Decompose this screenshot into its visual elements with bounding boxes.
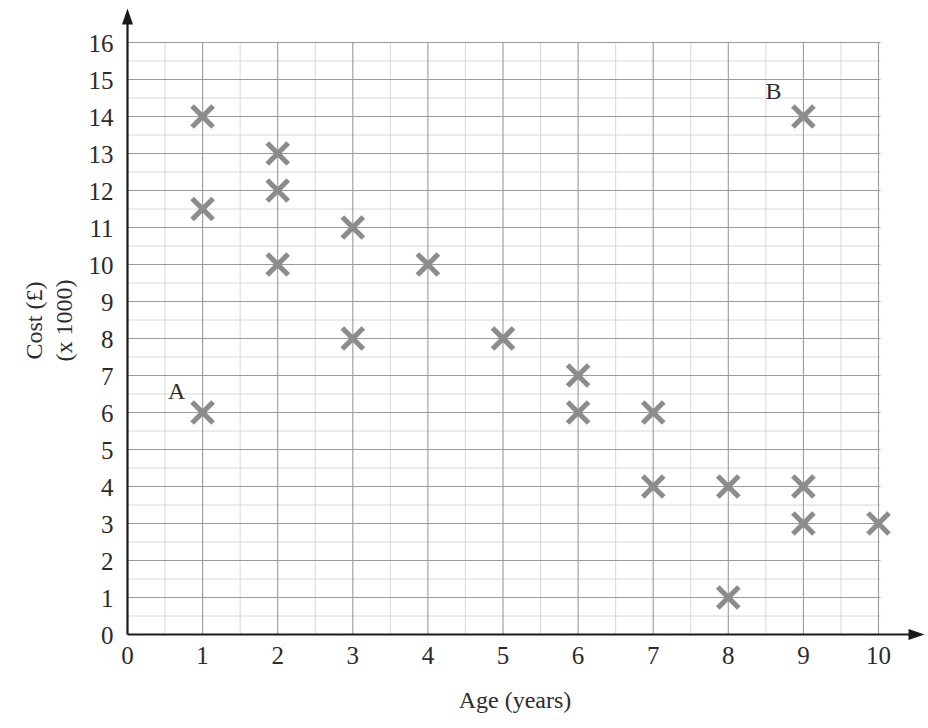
y-axis-title-line1: Cost (£) [21, 282, 47, 360]
y-tick-label: 5 [101, 437, 114, 464]
scatter-plot-canvas: 012345678910 012345678910111213141516 AB… [0, 0, 928, 728]
y-tick-label: 1 [101, 585, 114, 612]
y-tick-label: 11 [89, 215, 113, 242]
x-axis-tick-labels: 012345678910 [121, 642, 891, 669]
y-tick-label: 7 [101, 363, 114, 390]
x-tick-label: 7 [647, 642, 660, 669]
y-tick-label: 3 [101, 511, 114, 538]
x-tick-label: 4 [422, 642, 435, 669]
y-tick-label: 14 [89, 104, 115, 131]
x-tick-label: 8 [722, 642, 735, 669]
y-tick-label: 10 [89, 252, 114, 279]
x-tick-label: 5 [497, 642, 510, 669]
y-tick-label: 16 [89, 30, 114, 57]
y-tick-label: 13 [89, 141, 114, 168]
y-tick-label: 8 [101, 326, 114, 353]
y-tick-label: 4 [101, 474, 114, 501]
y-axis-tick-labels: 012345678910111213141516 [89, 30, 115, 649]
x-axis-title: Age (years) [459, 687, 572, 713]
y-tick-label: 15 [89, 67, 114, 94]
y-tick-label: 0 [101, 622, 114, 649]
point-label-b: B [765, 78, 781, 104]
y-tick-label: 2 [101, 548, 114, 575]
x-tick-label: 3 [347, 642, 360, 669]
x-tick-label: 1 [196, 642, 209, 669]
point-label-a: A [168, 378, 186, 404]
y-tick-label: 6 [101, 400, 114, 427]
x-tick-label: 9 [797, 642, 810, 669]
x-tick-label: 0 [121, 642, 134, 669]
x-axis-arrowhead [909, 629, 925, 640]
y-axis-arrowhead [122, 9, 133, 25]
y-tick-label: 12 [89, 178, 114, 205]
axis-lines [122, 9, 925, 641]
y-axis-title-line2: (x 1000) [51, 280, 77, 362]
x-tick-label: 10 [866, 642, 891, 669]
x-tick-label: 6 [572, 642, 585, 669]
x-tick-label: 2 [271, 642, 284, 669]
scatter-chart: 012345678910 012345678910111213141516 AB… [0, 0, 928, 728]
point-annotations: AB [168, 78, 781, 404]
y-tick-label: 9 [101, 289, 114, 316]
